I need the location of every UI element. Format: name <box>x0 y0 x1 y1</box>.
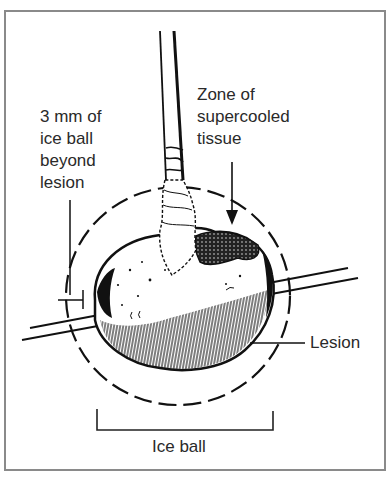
ice-ball-label: Ice ball <box>152 436 206 458</box>
ice-ball-bracket <box>97 409 273 430</box>
cryosurgery-illustration <box>0 0 392 478</box>
lesion-label: Lesion <box>310 332 360 354</box>
cryoprobe <box>160 31 196 275</box>
margin-dimension <box>58 200 83 309</box>
supercooled-zone-label: Zone of supercooled tissue <box>197 84 290 150</box>
margin-label: 3 mm of ice ball beyond lesion <box>40 106 101 194</box>
zone-arrow <box>226 162 238 225</box>
